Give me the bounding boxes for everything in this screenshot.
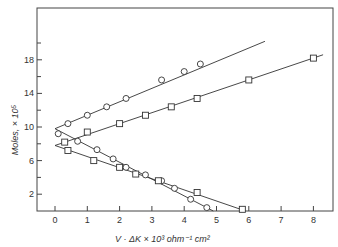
square-marker <box>84 129 90 135</box>
y-tick-label: 14 <box>24 88 34 98</box>
x-tick-label: 0 <box>52 215 57 225</box>
squares-falling-line <box>55 145 246 211</box>
x-tick-label: 3 <box>149 215 154 225</box>
circle-marker <box>110 156 116 162</box>
square-marker <box>142 112 148 118</box>
circle-marker <box>123 164 129 170</box>
circle-marker <box>204 205 210 211</box>
circle-marker <box>55 131 61 137</box>
circle-marker <box>188 196 194 202</box>
square-marker <box>168 104 174 110</box>
circle-marker <box>65 121 71 127</box>
square-marker <box>194 95 200 101</box>
square-marker <box>117 164 123 170</box>
circle-marker <box>142 172 148 178</box>
square-marker <box>194 190 200 196</box>
circle-marker <box>94 147 100 153</box>
square-marker <box>65 148 71 154</box>
circle-marker <box>75 138 81 144</box>
y-tick-label: 6 <box>29 156 34 166</box>
x-tick-label: 2 <box>117 215 122 225</box>
data-points <box>55 55 316 212</box>
square-marker <box>133 171 139 177</box>
square-marker <box>310 55 316 61</box>
circle-marker <box>84 112 90 118</box>
circle-marker <box>197 61 203 67</box>
y-tick-label: 2 <box>29 189 34 199</box>
circle-marker <box>159 77 165 83</box>
square-marker <box>246 77 252 83</box>
squares-rising-line <box>55 55 323 146</box>
square-marker <box>117 121 123 127</box>
y-tick-label: 18 <box>24 55 34 65</box>
circle-marker <box>123 95 129 101</box>
x-tick-label: 8 <box>311 215 316 225</box>
circle-marker <box>181 69 187 75</box>
y-axis-label: Moles, × 10⁵ <box>10 105 20 156</box>
circle-marker <box>172 185 178 191</box>
chart: 012345678 26101418 V · ΔK × 10³ ohm⁻¹ cm… <box>0 0 338 247</box>
y-axis: 26101418 <box>24 43 42 199</box>
x-tick-label: 6 <box>246 215 251 225</box>
x-axis-label: V · ΔK × 10³ ohm⁻¹ cm² <box>115 234 211 244</box>
circle-marker <box>104 104 110 110</box>
x-tick-label: 1 <box>85 215 90 225</box>
square-marker <box>155 178 161 184</box>
x-tick-label: 4 <box>182 215 187 225</box>
square-marker <box>239 206 245 212</box>
x-axis: 012345678 <box>52 206 315 225</box>
fit-lines <box>55 41 323 211</box>
square-marker <box>62 139 68 145</box>
x-tick-label: 7 <box>279 215 284 225</box>
square-marker <box>91 158 97 164</box>
y-tick-label: 10 <box>24 122 34 132</box>
x-tick-label: 5 <box>214 215 219 225</box>
plot-frame <box>37 8 333 211</box>
